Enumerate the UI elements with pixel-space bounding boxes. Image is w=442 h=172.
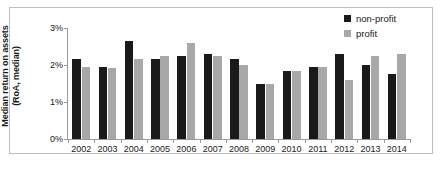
x-tick-label-2012: 2012 xyxy=(334,144,354,154)
bar-non-profit-2002 xyxy=(72,59,81,139)
x-tick-mark xyxy=(384,139,385,143)
bar-non-profit-2011 xyxy=(309,67,318,139)
bar-non-profit-2013 xyxy=(362,65,371,139)
x-tick-label-2013: 2013 xyxy=(361,144,381,154)
y-tick-mark xyxy=(64,28,68,29)
bar-non-profit-2007 xyxy=(204,54,213,139)
bar-profit-2005 xyxy=(160,56,169,139)
y-axis-title-line-1: Median return on assets xyxy=(0,10,11,142)
x-tick-label-2005: 2005 xyxy=(150,144,170,154)
x-tick-label-2008: 2008 xyxy=(229,144,249,154)
x-tick-mark xyxy=(357,139,358,143)
bar-group-2004 xyxy=(121,28,147,139)
legend-swatch-icon xyxy=(344,15,351,22)
x-tick-mark xyxy=(252,139,253,143)
bar-group-2013 xyxy=(357,28,383,139)
bar-group-2014 xyxy=(384,28,410,139)
x-tick-label-2007: 2007 xyxy=(203,144,223,154)
legend-swatch-icon xyxy=(344,30,351,37)
bar-group-2008 xyxy=(226,28,252,139)
y-tick-label-1: 1% xyxy=(41,97,63,107)
bar-group-2005 xyxy=(147,28,173,139)
x-tick-label-2014: 2014 xyxy=(387,144,407,154)
x-tick-mark xyxy=(331,139,332,143)
x-tick-label-2006: 2006 xyxy=(176,144,196,154)
legend-label: profit xyxy=(356,28,377,39)
bars-layer xyxy=(68,28,410,139)
bar-group-2003 xyxy=(94,28,120,139)
x-tick-mark xyxy=(226,139,227,143)
plot-area xyxy=(68,28,410,139)
legend-label: non-profit xyxy=(356,13,396,24)
bar-profit-2004 xyxy=(134,59,143,139)
x-tick-mark xyxy=(305,139,306,143)
x-tick-label-2002: 2002 xyxy=(71,144,91,154)
y-tick-mark xyxy=(64,65,68,66)
chart-figure: Median return on assets (RoA, median) 0%… xyxy=(0,0,442,172)
bar-group-2010 xyxy=(278,28,304,139)
y-tick-mark xyxy=(64,102,68,103)
chart-legend: non-profitprofit xyxy=(344,12,428,42)
bar-non-profit-2012 xyxy=(335,54,344,139)
x-axis-tick-labels: 2002200320042005200620072008200920102011… xyxy=(68,139,410,161)
x-tick-mark xyxy=(94,139,95,143)
bar-non-profit-2005 xyxy=(151,59,160,139)
x-tick-mark xyxy=(410,139,411,143)
bar-profit-2012 xyxy=(345,80,354,139)
x-tick-mark xyxy=(147,139,148,143)
bar-profit-2014 xyxy=(397,54,406,139)
x-tick-mark xyxy=(278,139,279,143)
bar-group-2011 xyxy=(305,28,331,139)
bar-profit-2007 xyxy=(213,56,222,139)
bar-group-2009 xyxy=(252,28,278,139)
bar-profit-2008 xyxy=(239,65,248,139)
bar-profit-2003 xyxy=(108,68,117,139)
x-tick-label-2003: 2003 xyxy=(97,144,117,154)
y-axis-tick-labels: 0%1%2%3% xyxy=(41,0,63,172)
y-axis-title-line-2: (RoA, median) xyxy=(11,10,22,142)
bar-non-profit-2008 xyxy=(230,59,239,139)
bar-non-profit-2010 xyxy=(283,71,292,139)
y-tick-label-2: 2% xyxy=(41,60,63,70)
x-tick-label-2010: 2010 xyxy=(282,144,302,154)
y-tick-mark xyxy=(64,139,68,140)
bar-non-profit-2009 xyxy=(256,84,265,140)
x-tick-label-2009: 2009 xyxy=(255,144,275,154)
x-tick-mark xyxy=(200,139,201,143)
x-tick-label-2004: 2004 xyxy=(124,144,144,154)
x-tick-label-2011: 2011 xyxy=(308,144,327,154)
bar-non-profit-2006 xyxy=(177,56,186,139)
legend-item-non-profit: non-profit xyxy=(344,12,428,25)
y-tick-label-3: 3% xyxy=(41,23,63,33)
bar-non-profit-2014 xyxy=(388,74,397,139)
legend-item-profit: profit xyxy=(344,27,428,40)
bar-group-2012 xyxy=(331,28,357,139)
bar-profit-2010 xyxy=(292,71,301,139)
bar-group-2007 xyxy=(200,28,226,139)
bar-non-profit-2003 xyxy=(99,67,108,139)
x-tick-mark xyxy=(121,139,122,143)
bar-profit-2009 xyxy=(266,84,275,140)
bar-group-2002 xyxy=(68,28,94,139)
bar-non-profit-2004 xyxy=(125,41,134,139)
x-tick-mark xyxy=(173,139,174,143)
bar-profit-2006 xyxy=(187,43,196,139)
x-tick-mark xyxy=(68,139,69,143)
y-axis-title: Median return on assets (RoA, median) xyxy=(0,10,30,142)
bar-profit-2013 xyxy=(371,56,380,139)
y-tick-label-0: 0% xyxy=(41,134,63,144)
bar-group-2006 xyxy=(173,28,199,139)
bar-profit-2002 xyxy=(82,67,91,139)
bar-profit-2011 xyxy=(318,67,327,139)
